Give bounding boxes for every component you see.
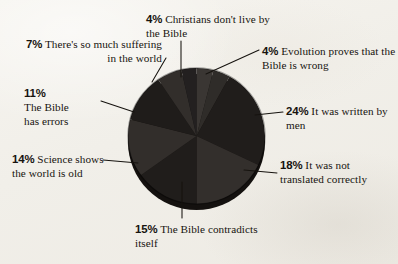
leader-line-evolution (206, 50, 259, 74)
slice-text-translated-line1: It was (305, 159, 332, 171)
slice-text-errors-line1: The Bible (24, 101, 69, 113)
slice-text-evolution-line1: Evolution proves (281, 45, 359, 57)
slice-label-contradicts-itself[interactable]: 15% The Bible contradicts itself (135, 222, 265, 250)
slice-percent-christians: 4% (146, 13, 162, 25)
slice-percent-suffering: 7% (26, 38, 42, 50)
slice-percent-contradicts: 15% (135, 223, 158, 235)
slice-text-science-line1: Science (37, 153, 72, 165)
slice-label-written-by-men[interactable]: 24% It was written by men (286, 104, 396, 132)
slice-label-suffering[interactable]: 7% There's so much suffering in the worl… (20, 37, 162, 65)
slice-text-suffering-line1: There's so much (45, 38, 119, 50)
slice-percent-evolution: 4% (262, 45, 278, 57)
slice-label-christians[interactable]: 4% Christians don't live by the Bible (146, 12, 278, 40)
slice-text-translated-line3: correctly (327, 173, 367, 185)
slice-label-evolution[interactable]: 4% Evolution proves that the Bible is wr… (262, 44, 396, 72)
pie-chart-figure: 4% Christians don't live by the Bible 7%… (0, 0, 398, 264)
slice-text-written-line1: It was (311, 105, 338, 117)
slice-label-not-translated[interactable]: 18% It was not translated correctly (280, 158, 396, 186)
slice-text-contradicts-line1: The Bible (160, 223, 205, 235)
slice-percent-written: 24% (286, 105, 309, 117)
slice-text-errors-line2: has errors (24, 115, 68, 127)
slice-label-bible-has-errors[interactable]: 11% The Bible has errors (24, 86, 116, 129)
slice-percent-errors: 11% (24, 87, 46, 99)
slice-text-science-line3: world is old (29, 167, 83, 179)
slice-percent-translated: 18% (280, 159, 303, 171)
slice-percent-science: 14% (12, 153, 35, 165)
slice-label-science[interactable]: 14% Science shows the world is old (12, 152, 120, 180)
slice-text-christians-line1: Christians don't live (165, 13, 256, 25)
